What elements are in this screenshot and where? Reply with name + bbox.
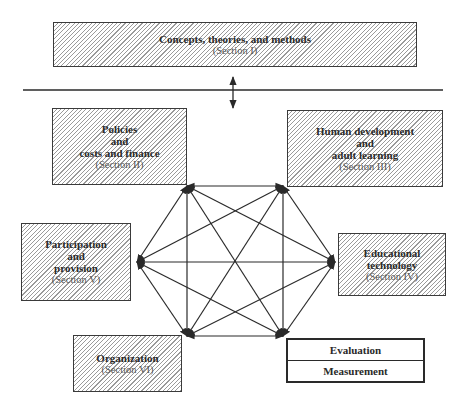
organization-box: Organization (Section VI) <box>73 335 182 392</box>
participation-line-3: provision <box>54 262 98 274</box>
participation-line-1: Participation <box>45 238 107 250</box>
evaluation-measurement-box: Evaluation Measurement <box>286 338 425 383</box>
policies-line-1: Policies <box>102 123 137 135</box>
policies-box: Policies and costs and finance (Section … <box>52 108 187 185</box>
participation-line-2: and <box>67 250 85 262</box>
human-dev-section: (Section III) <box>339 161 391 173</box>
evaluation-label: Evaluation <box>288 340 423 361</box>
edtech-line-1: Educational <box>364 247 421 259</box>
human-dev-line-1: Human development <box>316 125 414 137</box>
policies-section: (Section II) <box>95 159 143 171</box>
human-dev-line-3: adult learning <box>332 149 398 161</box>
concepts-section: (Section I) <box>213 45 258 57</box>
policies-line-2: and <box>111 135 129 147</box>
policies-line-3: costs and finance <box>79 147 159 159</box>
participation-section: (Section V) <box>52 274 101 286</box>
diagram-root: Concepts, theories, and methods (Section… <box>0 0 467 409</box>
concepts-label: Concepts, theories, and methods <box>159 33 311 45</box>
edtech-section: (Section IV) <box>366 271 418 283</box>
participation-box: Participation and provision (Section V) <box>21 223 131 301</box>
human-dev-line-2: and <box>356 137 374 149</box>
organization-section: (Section VI) <box>101 364 153 376</box>
human-development-box: Human development and adult learning (Se… <box>287 110 443 187</box>
organization-line-1: Organization <box>96 352 158 364</box>
edtech-line-2: technology <box>367 259 418 271</box>
educational-technology-box: Educational technology (Section IV) <box>338 233 446 296</box>
interaction-arrows <box>137 186 335 336</box>
concepts-box: Concepts, theories, and methods (Section… <box>53 22 417 67</box>
measurement-label: Measurement <box>288 361 423 382</box>
